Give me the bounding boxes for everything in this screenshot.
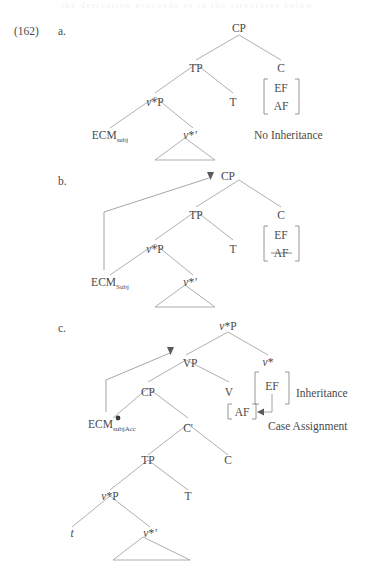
tree-c-node-vp: VP	[183, 357, 198, 369]
tree-b-node-ecm: ECMSubj	[91, 276, 129, 291]
tree-a-ecm-label: ECM	[92, 129, 117, 141]
tree-b-node-t: T	[229, 243, 236, 255]
tree-b-ecm-subscript: Subj	[116, 283, 129, 291]
tree-c-feature-bracket-lower: AF	[228, 404, 256, 419]
syntax-tree-figure: (162) a. CP TP C v*P T ECMsubj v*' EF AF…	[0, 0, 375, 571]
tree-c-node-vstarp: v*P	[101, 490, 118, 502]
tree-b-node-c: C	[277, 209, 285, 221]
tree-a-ecm-subscript: subj	[117, 136, 129, 144]
tree-c-node-tp: TP	[141, 454, 154, 466]
tree-c-node-ecm: ECMsubjAcc	[88, 418, 136, 433]
tree-b-movement-line	[104, 172, 214, 270]
tree-c-branches	[72, 332, 268, 560]
tree-b-feature-ef: EF	[274, 229, 287, 241]
tree-a-node-tp: TP	[189, 62, 202, 74]
tree-b-node-cp: CP	[221, 170, 235, 182]
tree-b-node-vstarp: v*P	[146, 243, 163, 255]
item-letter-c: c.	[58, 322, 66, 334]
tree-c-movement-line	[106, 347, 174, 412]
tree-a-feature-af: AF	[274, 100, 289, 112]
tree-c-feature-af: AF	[235, 406, 250, 418]
item-letter-b: b.	[58, 175, 67, 187]
tree-a-node-t: T	[229, 96, 236, 108]
tree-c-node-cbar: C'	[183, 422, 193, 434]
tree-a-branches	[110, 35, 281, 160]
tree-a-node-vstarbar: v*'	[183, 129, 197, 141]
tree-c-inheritance-arrow	[257, 394, 272, 416]
tree-c-node-trace: t	[70, 527, 74, 539]
tree-a-node-vstarp: v*P	[146, 96, 163, 108]
tree-c-node-t: T	[184, 490, 191, 502]
tree-c-ecm-label: ECM	[88, 418, 113, 430]
tree-a-feature-ef: EF	[274, 82, 287, 94]
tree-b-feature-bracket: EF AF	[264, 226, 299, 261]
tree-c-inheritance-arrowhead	[257, 409, 264, 416]
tree-b-movement-arrowhead	[207, 172, 214, 180]
tree-c-annotation-inheritance: Inheritance	[296, 387, 348, 399]
tree-b-node-vstarbar: v*'	[183, 276, 197, 288]
tree-c-feature-ef: EF	[265, 380, 278, 392]
tree-c-node-vstar: v*	[263, 356, 274, 368]
tree-c-node-vstarp-top: v*P	[219, 320, 236, 332]
tree-b-node-tp: TP	[189, 209, 202, 221]
tree-a-node-c: C	[277, 62, 285, 74]
tree-c-annotation-case: Case Assignment	[268, 420, 348, 433]
example-number: (162)	[14, 25, 39, 38]
tree-b-ecm-label: ECM	[91, 276, 116, 288]
tree-a-annotation: No Inheritance	[254, 129, 323, 141]
tree-c-ecm-subscript: subjAcc	[113, 425, 136, 433]
tree-c-ecm-bullet-dot	[116, 416, 121, 421]
figure-root: the derivation proceeds as in the struct…	[0, 0, 375, 571]
tree-a-node-ecm: ECMsubj	[92, 129, 129, 144]
tree-c-node-vstarbar: v*'	[143, 527, 157, 539]
item-letter-a: a.	[58, 25, 66, 37]
tree-a-feature-bracket: EF AF	[264, 79, 299, 114]
tree-c-node-c: C	[224, 454, 232, 466]
tree-a-node-cp: CP	[232, 22, 246, 34]
tree-c-node-cp: CP	[141, 386, 155, 398]
tree-c-node-v: V	[225, 386, 234, 398]
